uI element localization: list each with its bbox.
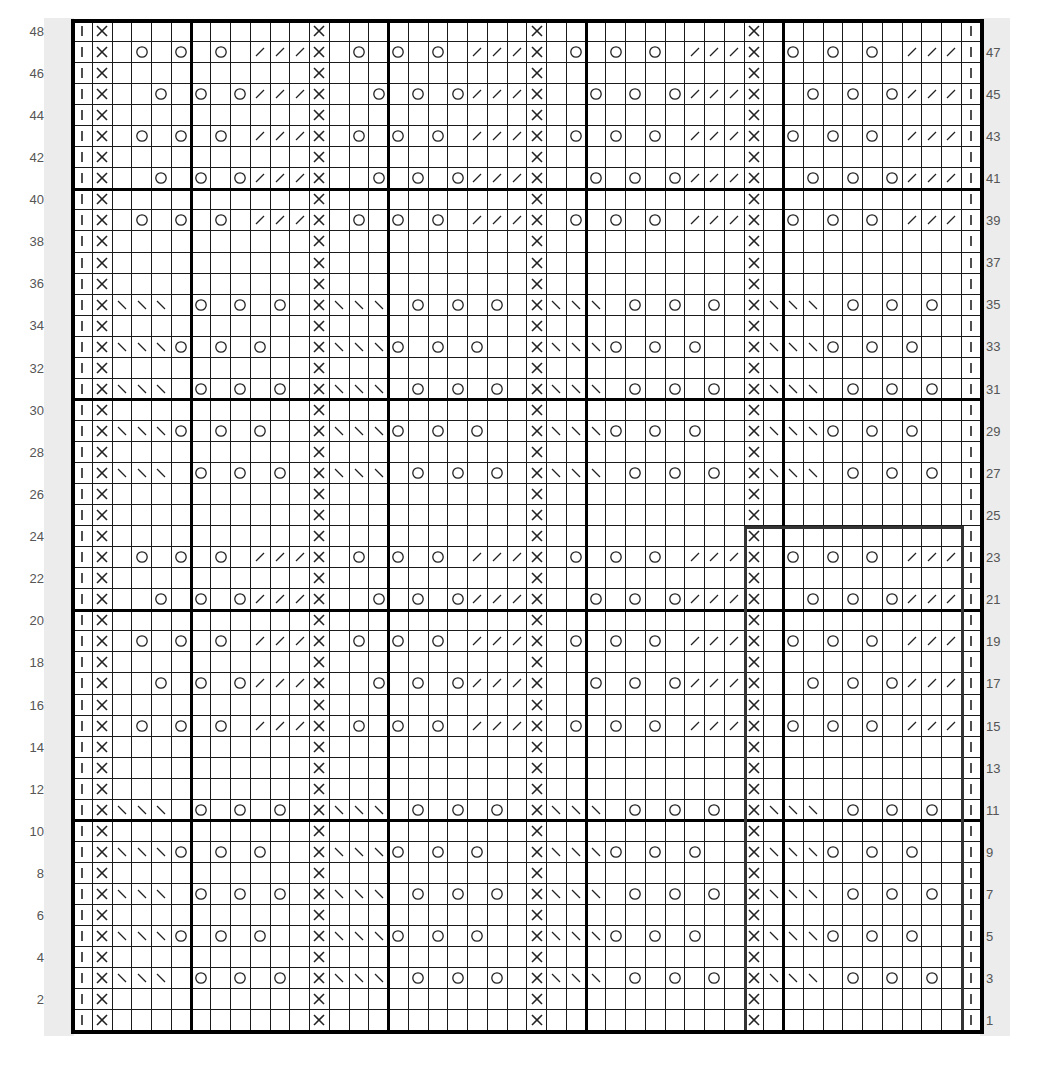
chart-cell [152,884,172,905]
chart-cell [73,947,93,968]
knit-bar-icon [75,466,89,480]
chart-cell [211,42,231,63]
yarn-over-icon [885,676,899,690]
chart-cell [73,800,93,821]
chart-cell [93,189,113,210]
chart-cell [508,105,528,126]
chart-cell [646,863,666,884]
chart-cell [93,253,113,274]
chart-cell [527,442,547,463]
knit-bar-icon [964,129,978,143]
chart-cell [93,568,113,589]
chart-cell [646,947,666,968]
cross-stitch-icon [747,971,761,985]
chart-cell [389,589,409,610]
left-decrease-icon [786,298,800,312]
chart-cell [429,716,449,737]
chart-cell [152,673,172,694]
cross-stitch-icon [95,803,109,817]
chart-cell [251,842,271,863]
chart-cell [231,337,251,358]
chart-cell [152,147,172,168]
chart-cell [290,105,310,126]
chart-cell [962,968,982,989]
chart-cell [745,84,765,105]
chart-cell [745,526,765,547]
chart-cell [113,779,133,800]
yarn-over-icon [648,213,662,227]
chart-cell [310,673,330,694]
chart-cell [903,21,923,42]
chart-cell [93,779,113,800]
chart-cell [725,126,745,147]
chart-cell [330,42,350,63]
chart-cell [132,884,152,905]
chart-cell [231,884,251,905]
cross-stitch-icon [95,171,109,185]
yarn-over-icon [431,550,445,564]
chart-cell [448,821,468,842]
chart-cell [429,442,449,463]
chart-cell [922,463,942,484]
chart-cell [429,147,449,168]
chart-cell [666,779,686,800]
chart-cell [172,800,192,821]
cross-stitch-icon [747,676,761,690]
yarn-over-icon [174,929,188,943]
chart-cell [804,905,824,926]
chart-cell [468,716,488,737]
chart-cell [824,379,844,400]
knit-bar-icon [964,866,978,880]
chart-cell [251,821,271,842]
chart-cell [587,526,607,547]
cross-stitch-icon [530,992,544,1006]
chart-cell [429,274,449,295]
chart-cell [152,716,172,737]
chart-cell [922,379,942,400]
cross-stitch-icon [312,234,326,248]
right-decrease-icon [490,213,504,227]
chart-cell [942,631,962,652]
chart-cell [527,379,547,400]
chart-cell [626,358,646,379]
chart-cell [863,210,883,231]
chart-cell [725,231,745,252]
chart-cell [172,295,192,316]
chart-cell [804,63,824,84]
chart-cell [409,947,429,968]
chart-cell [547,863,567,884]
cross-stitch-icon [747,66,761,80]
left-decrease-icon [767,298,781,312]
chart-cell [488,295,508,316]
yarn-over-icon [846,298,860,312]
chart-cell [843,758,863,779]
chart-cell [824,231,844,252]
chart-cell [567,800,587,821]
chart-cell [508,147,528,168]
chart-cell [271,337,291,358]
chart-cell [883,316,903,337]
chart-cell [389,421,409,442]
chart-cell [587,926,607,947]
chart-cell [231,547,251,568]
chart-cell [883,463,903,484]
chart-cell [725,673,745,694]
chart-cell [310,358,330,379]
chart-cell [251,105,271,126]
knit-bar-icon [964,1013,978,1027]
chart-cell [409,1010,429,1031]
chart-cell [172,695,192,716]
cross-stitch-icon [312,655,326,669]
cross-stitch-icon [530,319,544,333]
chart-cell [824,253,844,274]
right-decrease-icon [490,171,504,185]
chart-cell [152,358,172,379]
cross-stitch-icon [312,87,326,101]
chart-cell [626,231,646,252]
chart-cell [843,400,863,421]
chart-cell [152,379,172,400]
right-decrease-icon [905,129,919,143]
chart-cell [824,358,844,379]
cross-stitch-icon [747,803,761,817]
chart-cell [626,379,646,400]
